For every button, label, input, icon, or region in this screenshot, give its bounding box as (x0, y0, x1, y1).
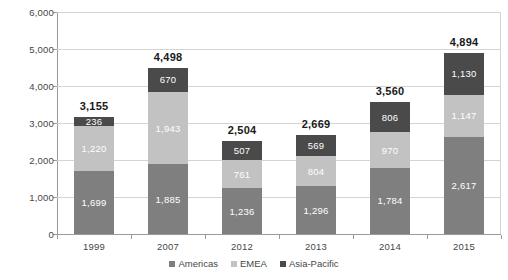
bar-group[interactable]: 1,2367615072,504 (222, 12, 262, 234)
x-axis-tick-label: 2015 (427, 241, 501, 252)
x-axis-tick-label: 2007 (131, 241, 205, 252)
bar-total-label: 3,560 (350, 85, 430, 97)
bar-group[interactable]: 1,8851,9436704,498 (148, 12, 188, 234)
bar-segment-americas[interactable]: 1,699 (74, 171, 114, 234)
bar-segment-emea[interactable]: 1,220 (74, 126, 114, 171)
x-axis-tick-mark (57, 235, 58, 239)
bars-layer: 1,6991,2202363,1551,8851,9436704,4981,23… (57, 12, 501, 234)
stacked-bar-chart: 01,0002,0003,0004,0005,0006,000 19992007… (0, 0, 508, 280)
bar-total-label: 2,504 (202, 124, 282, 136)
bar-group[interactable]: 1,2968045692,669 (296, 12, 336, 234)
bar-segment-americas[interactable]: 1,885 (148, 164, 188, 234)
chart-legend: AmericasEMEAAsia-Pacific (0, 258, 508, 269)
legend-swatch-icon (280, 261, 286, 267)
x-axis-tick-label: 2013 (279, 241, 353, 252)
bar-segment-asia-pacific[interactable]: 670 (148, 68, 188, 93)
bar-segment-emea[interactable]: 804 (296, 156, 336, 186)
x-axis-tick-label: 1999 (57, 241, 131, 252)
bar-segment-emea[interactable]: 970 (370, 132, 410, 168)
y-axis-tick-label: 0 (10, 229, 54, 240)
x-axis-tick-mark (205, 235, 206, 239)
bar-segment-asia-pacific[interactable]: 236 (74, 117, 114, 126)
legend-item[interactable]: Americas (169, 258, 218, 269)
bar-total-label: 4,894 (424, 36, 504, 48)
x-axis-tick-mark (427, 235, 428, 239)
legend-swatch-icon (231, 261, 237, 267)
bar-total-label: 4,498 (128, 51, 208, 63)
legend-item[interactable]: Asia-Pacific (280, 258, 339, 269)
legend-label: EMEA (240, 258, 267, 269)
bar-segment-asia-pacific[interactable]: 1,130 (444, 53, 484, 95)
bar-segment-asia-pacific[interactable]: 569 (296, 135, 336, 156)
bar-total-label: 2,669 (276, 118, 356, 130)
bar-segment-americas[interactable]: 2,617 (444, 137, 484, 234)
legend-label: Americas (178, 258, 218, 269)
x-axis-tick-mark (501, 235, 502, 239)
bar-segment-emea[interactable]: 1,943 (148, 92, 188, 164)
x-axis-tick-label: 2012 (205, 241, 279, 252)
bar-group[interactable]: 2,6171,1471,1304,894 (444, 12, 484, 234)
x-axis-tick-mark (353, 235, 354, 239)
legend-item[interactable]: EMEA (231, 258, 267, 269)
y-axis-tick-label: 6,000 (10, 7, 54, 18)
x-axis-tick-mark (131, 235, 132, 239)
y-axis-tick-label: 3,000 (10, 118, 54, 129)
bar-group[interactable]: 1,7849708063,560 (370, 12, 410, 234)
y-axis-tick-label: 2,000 (10, 155, 54, 166)
x-axis-tick-mark (279, 235, 280, 239)
bar-segment-americas[interactable]: 1,784 (370, 168, 410, 234)
y-axis-tick-label: 5,000 (10, 44, 54, 55)
bar-group[interactable]: 1,6991,2202363,155 (74, 12, 114, 234)
bar-segment-asia-pacific[interactable]: 507 (222, 141, 262, 160)
y-axis-tick-label: 4,000 (10, 81, 54, 92)
bar-total-label: 3,155 (54, 100, 134, 112)
y-axis-tick-label: 1,000 (10, 192, 54, 203)
legend-swatch-icon (169, 261, 175, 267)
legend-label: Asia-Pacific (289, 258, 339, 269)
bar-segment-americas[interactable]: 1,236 (222, 188, 262, 234)
bar-segment-emea[interactable]: 761 (222, 160, 262, 188)
x-axis-tick-label: 2014 (353, 241, 427, 252)
bar-segment-asia-pacific[interactable]: 806 (370, 102, 410, 132)
bar-segment-emea[interactable]: 1,147 (444, 95, 484, 137)
bar-segment-americas[interactable]: 1,296 (296, 186, 336, 234)
